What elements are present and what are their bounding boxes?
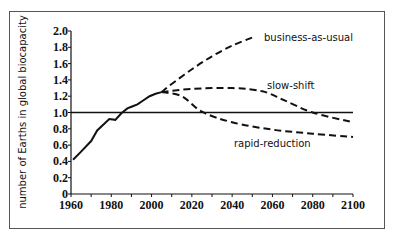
y-axis-label: number of Earths in global biocapacity bbox=[17, 15, 28, 209]
series-rapid-reduction bbox=[162, 92, 353, 137]
x-tick-label: 1980 bbox=[99, 198, 123, 212]
y-tick-label: 1.4 bbox=[53, 73, 68, 87]
y-axis: 00.20.40.60.81.01.21.41.61.82.0 bbox=[53, 24, 71, 201]
label-rapid-reduction: rapid-reduction bbox=[234, 138, 311, 149]
y-tick-label: 0.2 bbox=[53, 171, 68, 185]
series-slow-shift bbox=[162, 88, 353, 122]
y-tick-label: 1.2 bbox=[53, 89, 68, 103]
y-tick-label: 0.4 bbox=[53, 154, 68, 168]
series-historical bbox=[73, 92, 162, 160]
x-tick-label: 1960 bbox=[59, 198, 83, 212]
y-tick-label: 1.8 bbox=[53, 40, 68, 54]
x-tick-label: 2020 bbox=[180, 198, 204, 212]
x-tick-label: 2040 bbox=[220, 198, 244, 212]
x-tick-label: 2060 bbox=[260, 198, 284, 212]
y-tick-label: 1.0 bbox=[53, 106, 68, 120]
y-tick-label: 1.6 bbox=[53, 57, 68, 71]
label-business-as-usual: business-as-usual bbox=[264, 32, 353, 43]
x-axis: 19601980200020202040206020802100 bbox=[59, 194, 365, 212]
x-tick-label: 2080 bbox=[301, 198, 325, 212]
x-tick-label: 2100 bbox=[341, 198, 365, 212]
y-tick-label: 0.8 bbox=[53, 122, 68, 136]
line-chart: 00.20.40.60.81.01.21.41.61.82.0 19601980… bbox=[0, 0, 395, 238]
series-business-as-usual bbox=[162, 38, 253, 93]
y-tick-label: 0.6 bbox=[53, 138, 68, 152]
x-tick-label: 2000 bbox=[140, 198, 164, 212]
y-tick-label: 2.0 bbox=[53, 24, 68, 38]
label-slow-shift: slow-shift bbox=[267, 80, 315, 91]
